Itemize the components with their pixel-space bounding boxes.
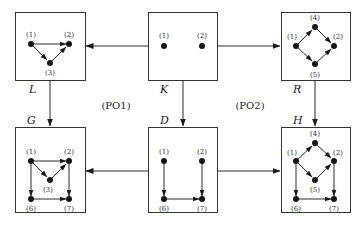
node-h-5	[312, 177, 318, 183]
morphism-arrows	[50, 46, 315, 171]
node-r-1	[293, 43, 299, 49]
graph-r: R (4) (1) (2) (5)	[282, 13, 351, 97]
node-label: (1)	[159, 148, 169, 156]
node-g-1	[28, 158, 34, 164]
node-label: (1)	[159, 32, 169, 40]
node-d-1	[161, 158, 167, 164]
graph-k-label: K	[159, 83, 169, 96]
node-label: (1)	[26, 31, 36, 39]
edge-h-5-2	[315, 164, 331, 180]
node-label: (5)	[310, 186, 320, 194]
node-label: (3)	[45, 69, 55, 77]
node-h-4	[312, 140, 318, 146]
node-k-2	[199, 43, 205, 49]
graph-g: G (1) (2) (3) (6) (7)	[16, 114, 86, 213]
graph-d-label: D	[159, 114, 169, 127]
node-h-1	[293, 158, 299, 164]
node-label: (6)	[159, 205, 169, 213]
node-d-6	[161, 196, 167, 202]
edge-r-5-2	[315, 49, 331, 64]
node-g-7	[66, 196, 72, 202]
node-r-5	[312, 61, 318, 67]
graph-g-box	[16, 128, 86, 213]
node-label: (5)	[310, 71, 320, 79]
node-d-7	[199, 196, 205, 202]
edge-l-1-3	[31, 44, 47, 60]
edge-g-1-3	[31, 161, 47, 177]
graph-h: H (4) (1) (2) (5) (6) (7)	[282, 114, 351, 213]
node-label: (6)	[26, 205, 36, 213]
graph-r-label: R	[292, 83, 301, 96]
node-l-1	[28, 41, 34, 47]
node-label: (2)	[197, 32, 207, 40]
node-label: (7)	[64, 205, 74, 213]
node-r-4	[312, 24, 318, 30]
graph-d-box	[149, 128, 218, 213]
edge-g-3-2	[50, 164, 66, 180]
node-label: (2)	[64, 148, 74, 156]
node-label: (4)	[310, 14, 320, 22]
po2-label: (PO2)	[235, 100, 264, 111]
node-h-2	[331, 158, 337, 164]
node-h-6	[293, 196, 299, 202]
node-l-3	[47, 60, 53, 66]
node-label: (2)	[197, 148, 207, 156]
node-label: (7)	[197, 205, 207, 213]
node-k-1	[161, 43, 167, 49]
node-l-2	[66, 41, 72, 47]
node-g-6	[28, 196, 34, 202]
edge-h-4-2	[315, 143, 331, 158]
edge-r-1-5	[296, 46, 312, 61]
node-h-7	[331, 196, 337, 202]
edge-r-4-2	[315, 27, 331, 43]
graph-d: D (1) (2) (6) (7)	[149, 114, 218, 213]
graph-g-label: G	[27, 114, 36, 127]
node-label: (7)	[329, 205, 339, 213]
edge-h-1-5	[296, 161, 312, 177]
node-label: (6)	[291, 205, 301, 213]
node-g-2	[66, 158, 72, 164]
node-r-2	[331, 43, 337, 49]
node-label: (2)	[333, 33, 343, 41]
graph-l-label: L	[28, 83, 36, 96]
edge-l-3-2	[50, 47, 66, 63]
graph-h-label: H	[292, 114, 303, 127]
node-g-3	[47, 177, 53, 183]
po1-label: (PO1)	[101, 100, 130, 111]
dpo-diagram: (PO1) (PO2) L (1) (2) (3) K (1) (2) R (4	[0, 0, 363, 228]
node-label: (2)	[64, 31, 74, 39]
node-label: (1)	[287, 149, 297, 157]
node-label: (3)	[43, 186, 53, 194]
graph-k-box	[149, 13, 218, 81]
edge-r-1-4	[296, 30, 312, 46]
edge-h-1-4	[296, 146, 312, 161]
node-label: (1)	[287, 33, 297, 41]
node-label: (2)	[333, 149, 343, 157]
node-label: (4)	[310, 130, 320, 138]
node-label: (1)	[26, 148, 36, 156]
node-d-2	[199, 158, 205, 164]
